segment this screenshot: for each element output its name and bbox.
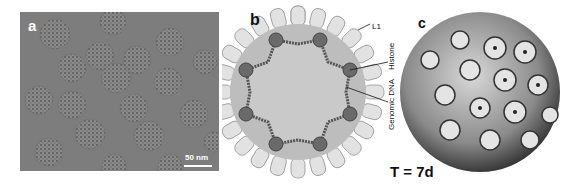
panel-a-micrograph: a 50 nm: [20, 12, 219, 171]
panel-label-a: a: [28, 18, 36, 33]
micrograph-image: [20, 12, 219, 171]
annotation-l1: L1: [372, 22, 381, 31]
scale-bar: [184, 165, 212, 167]
panel-label-b: b: [250, 12, 260, 28]
panel-label-c: c: [418, 16, 426, 30]
panel-b-schematic: b L1 Histone Genomic DNA: [222, 0, 392, 187]
panel-c-capsid-3d: c T = 7d: [390, 0, 577, 187]
triangulation-number: T = 7d: [390, 163, 434, 180]
scale-bar-label: 50 nm: [185, 153, 208, 162]
virion-schematic: [222, 0, 392, 187]
